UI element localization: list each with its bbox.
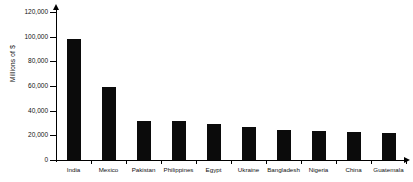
bar [312, 131, 326, 160]
x-axis-tick-label: China [345, 166, 361, 173]
y-axis-tick-label: 40,000 [0, 107, 48, 114]
y-axis-tick-label: 80,000 [0, 57, 48, 64]
y-axis-tick-label: 60,000 [0, 82, 48, 89]
x-axis-tick-label: Egypt [206, 166, 222, 173]
bar [347, 132, 361, 160]
bar [207, 124, 221, 160]
bar-chart: Millions of $ 020,00040,00060,00080,0001… [0, 0, 413, 182]
x-axis-tick [231, 160, 232, 164]
x-axis-tick-label: Guatemala [373, 166, 403, 173]
bar [102, 87, 116, 160]
x-axis-tick-label: Mexico [99, 166, 119, 173]
bar [277, 130, 291, 160]
x-axis-tick-label: Bangladesh [267, 166, 300, 173]
bar [137, 121, 151, 160]
y-axis-tick [50, 160, 56, 161]
x-axis-tick-label: Philippines [164, 166, 194, 173]
y-axis-tick-label: 20,000 [0, 131, 48, 138]
x-axis-tick [161, 160, 162, 164]
x-axis-tick-label: Nigeria [309, 166, 329, 173]
x-axis-labels: IndiaMexicoPakistanPhilippinesEgyptUkrai… [56, 166, 406, 180]
x-axis-tick [301, 160, 302, 164]
bar [172, 121, 186, 160]
bar [382, 133, 396, 160]
x-axis-tick-label: Ukraine [238, 166, 259, 173]
bar [242, 127, 256, 160]
x-axis-tick [91, 160, 92, 164]
bar [67, 39, 81, 160]
x-axis-tick-label: India [67, 166, 80, 173]
x-axis-tick [126, 160, 127, 164]
x-axis-tick [371, 160, 372, 164]
x-axis-tick-label: Pakistan [132, 166, 156, 173]
y-axis-tick-label: 0 [0, 156, 48, 163]
x-axis-tick [266, 160, 267, 164]
bar-series [56, 12, 406, 160]
y-axis-arrow-icon [53, 4, 59, 10]
x-axis-tick [406, 160, 407, 164]
y-axis-tick-label: 120,000 [0, 8, 48, 15]
x-axis-tick [336, 160, 337, 164]
y-axis-tick-label: 100,000 [0, 33, 48, 40]
x-axis-tick [196, 160, 197, 164]
